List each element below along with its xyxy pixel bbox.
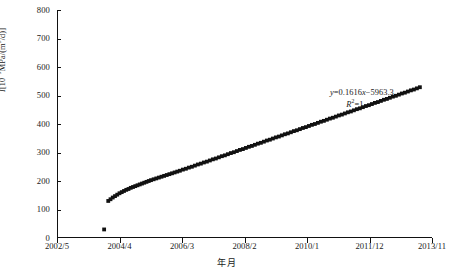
r-squared-value: R2=1 xyxy=(330,99,394,111)
y-axis-unit: [10−9MPa/(m3/d)] xyxy=(0,28,7,89)
x-tick-label: 2011/12 xyxy=(355,242,383,251)
x-tick-label: 2004/4 xyxy=(107,242,131,251)
y-tick-label: 400 xyxy=(22,120,50,129)
y-axis-title: I[10−9MPa/(m3/d)] xyxy=(0,78,8,92)
y-tick-label: 600 xyxy=(22,63,50,72)
regression-annotation: y=0.1616x−5963.3 R2=1 xyxy=(330,87,394,111)
y-tick-label: 700 xyxy=(22,34,50,43)
x-axis-title: 年月 xyxy=(0,256,453,269)
data-series xyxy=(102,228,106,232)
y-tick-label: 300 xyxy=(22,148,50,157)
y-tick-label: 200 xyxy=(22,177,50,186)
data-series-svg xyxy=(58,10,433,238)
y-tick-label: 800 xyxy=(22,6,50,15)
x-tick-label: 2010/1 xyxy=(295,242,319,251)
plot-area xyxy=(57,10,432,238)
y-axis-symbol: I xyxy=(0,89,7,92)
data-point xyxy=(102,228,106,232)
regression-equation: y=0.1616x−5963.3 xyxy=(330,87,394,99)
x-tick-label: 2006/3 xyxy=(170,242,194,251)
x-tick-label: 2013/11 xyxy=(418,242,446,251)
figure-container: 0100200300400500600700800 2002/52004/420… xyxy=(0,0,453,280)
x-tick-label: 2008/2 xyxy=(232,242,256,251)
y-tick-label: 500 xyxy=(22,91,50,100)
data-point xyxy=(418,85,422,89)
x-tick-label: 2002/5 xyxy=(45,242,69,251)
y-tick-label: 100 xyxy=(22,205,50,214)
